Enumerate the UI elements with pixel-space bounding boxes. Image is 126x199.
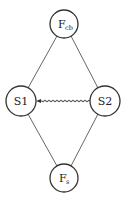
node-fcb: F cb [50,10,78,38]
edge-fs-s2 [71,114,98,166]
edge-fs-s1 [28,114,57,166]
node-s1-label: S1 [14,95,29,108]
node-fs: F s [50,164,78,192]
diagram-canvas: F cb S1 S2 F s [0,0,126,199]
node-s2-label: S2 [98,95,113,108]
edge-fcb-s1 [28,36,57,88]
node-s2: S2 [90,86,120,116]
arrowhead-icon [36,99,41,103]
node-fs-subscript: s [66,178,69,186]
node-s1: S1 [6,86,36,116]
edge-fcb-s2 [71,36,98,88]
wavy-arrow-s2-to-s1 [36,99,90,103]
node-fcb-subscript: cb [65,24,73,32]
